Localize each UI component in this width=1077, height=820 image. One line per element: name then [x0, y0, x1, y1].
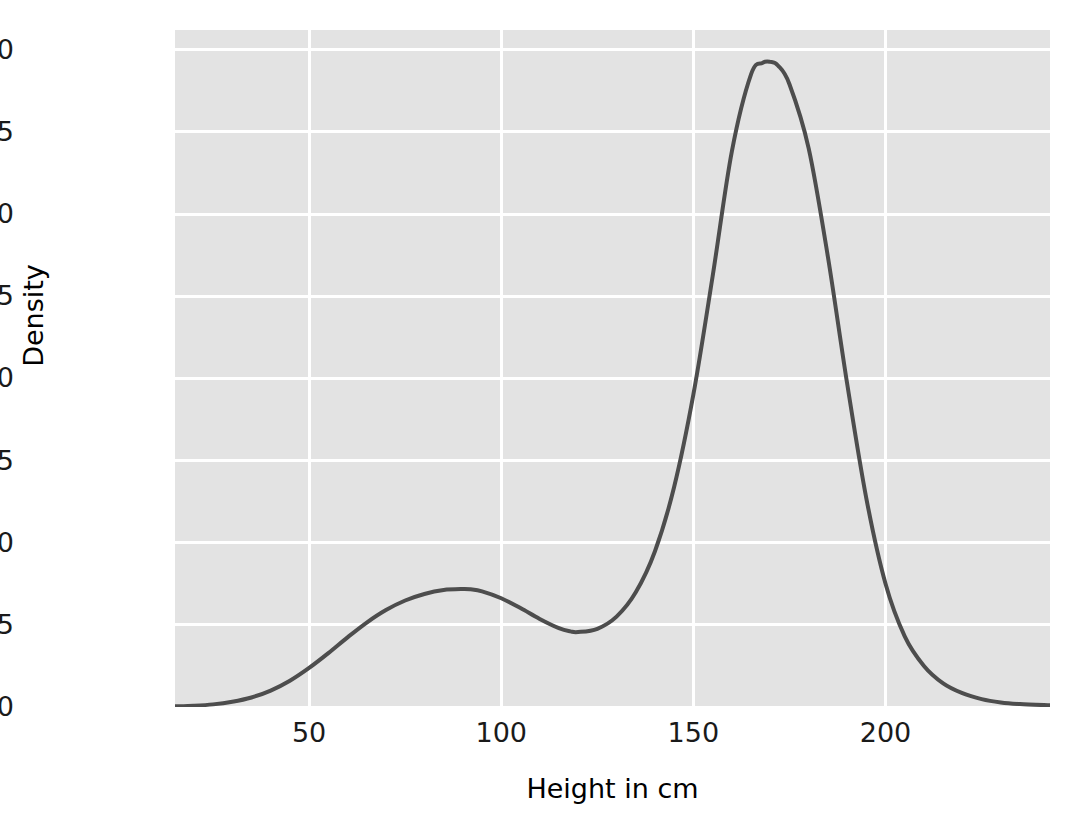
- density-curve-path: [175, 61, 1050, 706]
- y-tick-label: 0.0000: [0, 693, 14, 720]
- y-tick-label: 0.0075: [0, 447, 14, 474]
- y-tick-label: 0.0200: [0, 36, 14, 63]
- density-plot-figure: 0.00000.00250.00500.00750.01000.01250.01…: [0, 0, 1077, 820]
- x-tick-label: 200: [786, 719, 986, 746]
- y-tick-label: 0.0125: [0, 282, 14, 309]
- x-tick-label: 150: [593, 719, 793, 746]
- y-tick-label: 0.0025: [0, 611, 14, 638]
- x-tick-label: 100: [401, 719, 601, 746]
- y-tick-label: 0.0150: [0, 200, 14, 227]
- y-tick-label: 0.0100: [0, 364, 14, 391]
- x-tick-label: 50: [209, 719, 409, 746]
- y-axis-label: Density: [18, 186, 49, 446]
- x-axis-label: Height in cm: [175, 773, 1050, 804]
- density-curve: [175, 30, 1050, 707]
- plot-area: [175, 30, 1050, 707]
- y-tick-label: 0.0175: [0, 118, 14, 145]
- y-tick-label: 0.0050: [0, 529, 14, 556]
